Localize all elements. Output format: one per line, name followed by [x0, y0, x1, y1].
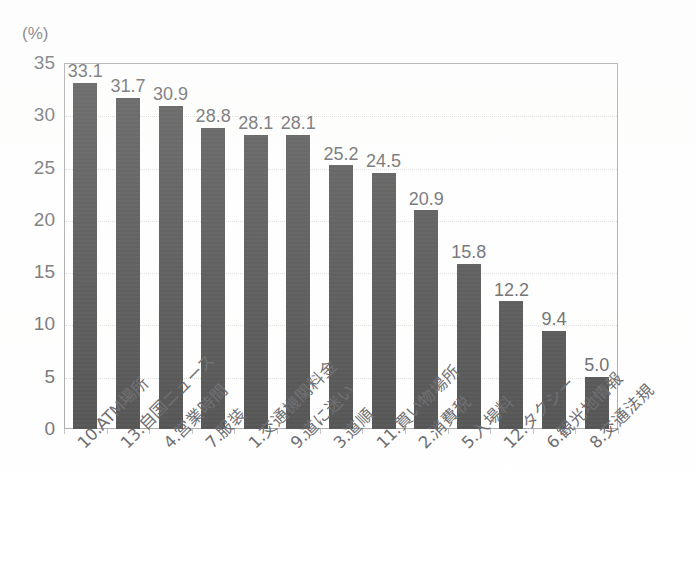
- bar-chart: (%) 05101520253035 33.131.730.928.828.12…: [0, 0, 696, 575]
- x-axis-labels: 10.ATM場所13.自国ニュース4.営業時間7.服装1.交通機関料金9.道に迷…: [0, 0, 696, 575]
